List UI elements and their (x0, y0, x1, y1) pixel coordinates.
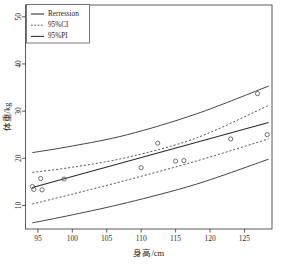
legend-label: 95%CI (48, 21, 69, 29)
x-axis-title: 身高/cm (133, 248, 164, 258)
x-tick-label: 110 (136, 234, 147, 243)
y-tick-label: 10 (15, 201, 24, 209)
scatter-plot-canvas: 95100105110115120125 1020304050 身高/cm 体重… (0, 0, 283, 264)
x-tick-label: 105 (101, 234, 113, 243)
x-tick-label: 120 (204, 234, 216, 243)
chart-legend: Rerression95%CI95%PI (27, 5, 90, 44)
y-tick-label: 40 (15, 60, 24, 68)
y-tick-label: 50 (15, 13, 24, 21)
x-tick-label: 115 (170, 234, 181, 243)
y-tick-label: 20 (15, 154, 24, 162)
y-tick-label: 30 (15, 107, 24, 115)
legend-label: Rerression (48, 10, 79, 18)
x-tick-label: 95 (34, 234, 42, 243)
chart-figure: 95100105110115120125 1020304050 身高/cm 体重… (0, 0, 283, 264)
y-axis-title: 体重/kg (2, 102, 12, 132)
x-tick-label: 125 (239, 234, 251, 243)
x-tick-label: 100 (67, 234, 79, 243)
legend-label: 95%PI (48, 32, 68, 40)
